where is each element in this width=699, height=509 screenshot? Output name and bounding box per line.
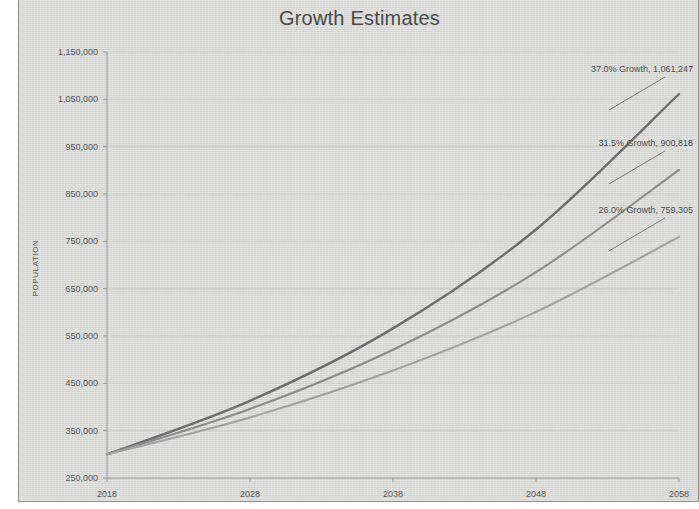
y-axis-title: POPULATION [31,240,40,297]
y-tick-label: 1,150,000 [58,47,98,57]
x-tick-label: 2058 [669,489,689,499]
series-annotation-0: 37.0% Growth, 1,061,247 [591,64,693,74]
series-line-1 [107,170,679,454]
y-tick-label: 250,000 [65,473,98,483]
series-annotation-2: 26.0% Growth, 759,305 [598,205,693,215]
y-axis-ticks-group: 250,000350,000450,000550,000650,000750,0… [58,47,107,483]
annotation-leader-0 [609,77,665,110]
x-tick-label: 2018 [97,489,117,499]
plot-area: 250,000350,000450,000550,000650,000750,0… [19,0,699,502]
x-axis-ticks-group: 20182028203820482058 [97,478,689,499]
chart-svg: 250,000350,000450,000550,000650,000750,0… [19,0,699,502]
y-tick-label: 750,000 [65,236,98,246]
y-tick-label: 1,050,000 [58,94,98,104]
series-line-0 [107,94,679,454]
y-tick-label: 850,000 [65,189,98,199]
y-tick-label: 650,000 [65,284,98,294]
x-tick-label: 2038 [383,489,403,499]
series-lines-group [107,94,679,454]
chart-card: Growth Estimates 250,000350,000450,00055… [18,0,699,502]
y-tick-label: 950,000 [65,142,98,152]
x-tick-label: 2028 [240,489,260,499]
page-root: Growth Estimates 250,000350,000450,00055… [0,0,699,509]
y-tick-label: 350,000 [65,426,98,436]
y-tick-label: 550,000 [65,331,98,341]
gridlines-group [107,52,679,478]
series-line-2 [107,237,679,454]
y-tick-label: 450,000 [65,378,98,388]
annotation-leader-2 [609,218,665,251]
x-tick-label: 2048 [526,489,546,499]
series-annotation-1: 31.5% Growth, 900,818 [598,138,693,148]
